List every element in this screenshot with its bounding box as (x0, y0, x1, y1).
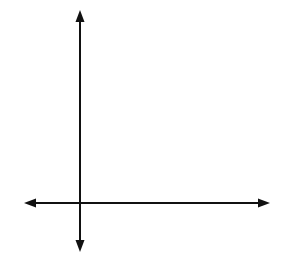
x-axis-left-arrow-icon (24, 199, 36, 208)
y-axis-up-arrow-icon (76, 10, 85, 22)
scatter-plot (0, 0, 295, 268)
axes (24, 10, 270, 252)
x-axis-right-arrow-icon (258, 199, 270, 208)
y-axis-down-arrow-icon (76, 240, 85, 252)
